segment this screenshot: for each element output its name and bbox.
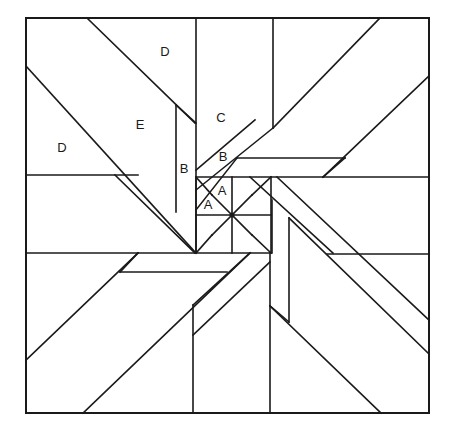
seam-line — [323, 158, 345, 177]
label-d-left: D — [57, 140, 66, 155]
center-point — [230, 213, 235, 218]
seam-line — [277, 177, 429, 320]
seam-line — [273, 18, 380, 128]
label-a-upper: A — [218, 183, 227, 198]
seam-line — [26, 66, 195, 252]
seam-line — [26, 253, 138, 360]
label-b-vertical: B — [180, 161, 189, 176]
seam-line — [270, 306, 289, 322]
seam-line — [289, 218, 429, 354]
seam-line — [196, 235, 212, 253]
seam-line — [193, 262, 270, 335]
seam-line — [115, 175, 195, 253]
label-b-diagonal: B — [219, 149, 228, 164]
label-a-lower: A — [204, 197, 213, 212]
seam-line — [270, 306, 381, 413]
seam-line — [176, 105, 196, 123]
seam-line — [252, 235, 271, 253]
label-c: C — [216, 110, 225, 125]
quilt-block-diagram: D E D C B B A A — [0, 0, 453, 433]
seam-line — [323, 76, 429, 177]
label-e: E — [136, 117, 145, 132]
seam-line — [120, 253, 138, 272]
seam-line — [83, 253, 250, 413]
seam-line — [193, 253, 250, 305]
seam-line — [252, 177, 271, 195]
label-d-top: D — [160, 44, 169, 59]
seam-lines — [26, 18, 429, 413]
